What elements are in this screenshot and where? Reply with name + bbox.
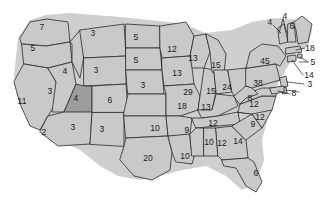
state-nd <box>126 24 160 48</box>
leader-nj <box>287 82 304 84</box>
state-label-ri: 5 <box>311 58 316 67</box>
state-label-wi: 13 <box>188 54 198 63</box>
state-az <box>40 112 92 146</box>
state-label-ar: 18 <box>177 102 187 111</box>
state-label-wv: 8 <box>248 94 253 103</box>
state-nm <box>90 112 124 146</box>
state-label-mi: 15 <box>211 61 221 70</box>
state-sd <box>126 48 162 70</box>
state-label-me: 6 <box>290 22 295 31</box>
state-label-mt: 3 <box>91 29 96 38</box>
state-label-ny: 45 <box>260 57 270 66</box>
state-label-wa: 7 <box>40 23 45 32</box>
state-label-pa: 38 <box>253 79 263 88</box>
state-label-tn: 10 <box>204 138 214 147</box>
state-ct <box>288 55 296 62</box>
state-wa <box>20 19 70 46</box>
state-label-nj: 3 <box>308 80 313 89</box>
state-label-vt: 4 <box>268 18 273 27</box>
state-label-ca: 11 <box>17 97 26 106</box>
state-label-la: 9 <box>185 126 190 135</box>
state-label-co: 6 <box>108 96 113 105</box>
state-label-al: 12 <box>217 139 227 148</box>
state-label-or: 5 <box>31 44 36 53</box>
state-label-ks: 3 <box>100 125 105 134</box>
state-label-ut: 4 <box>74 94 79 103</box>
state-mt <box>80 24 126 58</box>
state-label-ga: 14 <box>233 137 243 146</box>
state-label-fl: 6 <box>254 169 259 178</box>
state-label-nv: 3 <box>48 87 53 96</box>
state-label-va: 12 <box>255 113 265 122</box>
state-label-ia: 13 <box>172 69 182 78</box>
state-label-oh: 13 <box>201 103 211 112</box>
state-ok <box>124 116 168 138</box>
state-label-in: 24 <box>222 83 232 92</box>
state-label-az: 2 <box>42 128 47 137</box>
state-label-tx: 20 <box>143 154 153 163</box>
state-ms2 <box>190 128 204 156</box>
state-label-nh: 4 <box>283 12 288 21</box>
state-label-ms: 10 <box>180 152 190 161</box>
us-electoral-map: 7511343342365533102012131329189101515241… <box>0 0 325 214</box>
leader-ri <box>300 57 308 62</box>
state-ks <box>124 94 166 116</box>
state-label-ok: 10 <box>150 124 160 133</box>
map-graphic <box>0 0 325 214</box>
state-label-wy: 3 <box>94 66 99 75</box>
state-label-mo: 29 <box>183 88 193 97</box>
state-label-ky: 12 <box>208 119 218 128</box>
state-wy <box>84 56 126 86</box>
state-label-mn: 12 <box>167 45 177 54</box>
state-label-il: 15 <box>206 87 216 96</box>
state-shapes <box>14 13 312 192</box>
state-label-ne: 3 <box>141 81 146 90</box>
state-label-de: 8 <box>292 89 297 98</box>
state-label-sd: 5 <box>134 56 139 65</box>
state-label-nd: 5 <box>134 33 139 42</box>
state-label-id: 4 <box>63 67 68 76</box>
state-label-nm: 3 <box>71 123 76 132</box>
state-label-ma: 18 <box>305 44 315 53</box>
